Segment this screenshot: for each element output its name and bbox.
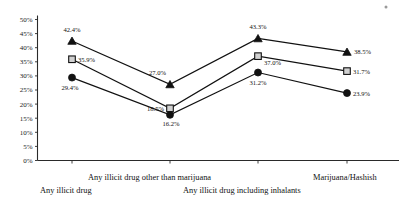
data-point-marker-triangle	[68, 37, 76, 44]
line-chart: 50%45%40%35%30%25%20%15%10%5%0% 42.4%27.…	[0, 0, 404, 202]
data-point-value-label: 31.7%	[353, 68, 371, 75]
data-point-marker-triangle	[254, 34, 262, 41]
data-point-value-label: 31.2%	[249, 79, 267, 86]
data-point-value-label: 18.5%	[147, 105, 165, 112]
x-axis-category-label: Any illicit drug other than marijuana	[88, 173, 211, 182]
y-axis-tick-label: 20%	[20, 101, 33, 109]
y-axis-tick-label: 0%	[23, 157, 33, 165]
data-point-marker-triangle	[166, 80, 174, 87]
x-axis-category-label: Any illicit drug including inhalants	[183, 186, 301, 195]
y-axis-tick-label: 40%	[20, 44, 33, 52]
y-axis-tick-label: 25%	[20, 86, 33, 94]
data-point-value-label: 38.5%	[354, 48, 372, 55]
data-point-marker-square	[167, 105, 174, 112]
data-point-marker-square	[255, 53, 262, 60]
data-point-value-label: 37.0%	[264, 59, 282, 66]
y-axis-tick-label: 35%	[20, 58, 33, 66]
y-axis-tick-label: 45%	[20, 30, 33, 38]
x-axis-category-label: Marijuana/Hashish	[313, 173, 378, 182]
series-line-circle	[72, 73, 347, 115]
y-axis-tick-label: 10%	[20, 129, 33, 137]
data-point-marker-circle	[167, 111, 174, 118]
y-axis-tick-label: 30%	[20, 72, 33, 80]
y-axis-tick-label: 15%	[20, 115, 33, 123]
x-axis-category-label: Any illicit drug	[40, 186, 92, 195]
data-point-marker-circle	[69, 74, 76, 81]
chart-canvas: 50%45%40%35%30%25%20%15%10%5%0% 42.4%27.…	[0, 0, 404, 202]
series-layer	[68, 34, 351, 118]
y-axis-tick-label: 5%	[23, 143, 33, 151]
data-point-value-label: 29.4%	[61, 84, 79, 91]
data-point-value-label: 43.3%	[249, 23, 267, 30]
data-point-value-label: 35.9%	[78, 56, 96, 63]
x-axis	[38, 161, 400, 164]
data-point-value-label: 42.4%	[63, 26, 81, 33]
category-labels-layer: Any illicit drugAny illicit drug other t…	[40, 173, 378, 195]
data-point-marker-circle	[255, 69, 262, 76]
data-point-marker-square	[69, 56, 76, 63]
data-point-value-label: 23.9%	[353, 90, 371, 97]
value-labels-layer: 42.4%27.0%43.3%38.5%35.9%18.5%37.0%31.7%…	[61, 23, 371, 126]
series-line-triangle	[72, 38, 347, 84]
y-axis-tick-label: 50%	[20, 16, 33, 24]
data-point-marker-circle	[344, 90, 351, 97]
scan-artifact-dot	[385, 6, 388, 9]
data-point-value-label: 16.2%	[162, 120, 180, 127]
data-point-value-label: 27.0%	[149, 69, 167, 76]
data-point-marker-square	[344, 68, 351, 75]
y-axis: 50%45%40%35%30%25%20%15%10%5%0%	[20, 16, 38, 165]
